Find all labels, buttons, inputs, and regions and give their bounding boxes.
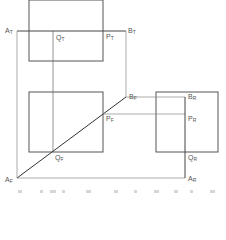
label-BF: BF	[129, 93, 137, 102]
label-QF: QF	[55, 154, 64, 163]
label-BR: BR	[188, 93, 196, 102]
label-AF: AF	[5, 176, 13, 185]
label-PR: PR	[188, 115, 196, 124]
label-BT: BT	[128, 27, 136, 36]
label-PF: PF	[106, 115, 114, 124]
label-PT: PT	[106, 33, 114, 42]
label-AR: AR	[188, 175, 196, 184]
cut-off-caption-fragment	[14, 188, 224, 194]
line-AF-BF	[17, 97, 126, 178]
label-QR: QR	[188, 154, 197, 163]
label-QT: QT	[56, 34, 65, 43]
right-view-rect	[156, 92, 218, 152]
label-AT: AT	[5, 27, 13, 36]
